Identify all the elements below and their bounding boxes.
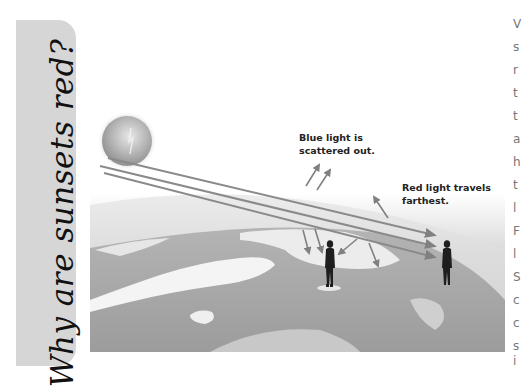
text-fragment: t: [513, 109, 518, 123]
text-fragment: s: [513, 339, 519, 353]
text-fragment: t: [513, 86, 518, 100]
caption-line: farthest.: [402, 194, 491, 207]
text-fragment: c: [513, 293, 520, 307]
text-fragment: h: [513, 155, 521, 169]
text-fragment: i: [513, 354, 516, 368]
caption-line: scattered out.: [299, 144, 375, 157]
text-fragment: r: [513, 63, 518, 77]
red-light-caption: Red light travels farthest.: [402, 181, 491, 207]
caption-line: Blue light is: [299, 131, 375, 144]
page-title: Why are sunsets red?: [44, 39, 80, 387]
body-text-column-cropped: V s r t t a h t l F l S c c s i: [513, 0, 524, 370]
text-fragment: a: [513, 132, 520, 146]
text-fragment: c: [513, 316, 520, 330]
text-fragment: F: [513, 224, 520, 238]
sunset-diagram: Blue light is scattered out. Red light t…: [90, 0, 505, 352]
sidebar-title-tab: Why are sunsets red?: [16, 20, 76, 366]
text-fragment: t: [513, 178, 518, 192]
text-fragment: V: [513, 17, 521, 31]
text-fragment: l: [513, 201, 516, 215]
text-fragment: s: [513, 40, 519, 54]
diagram-illustration: [90, 0, 505, 352]
blue-light-caption: Blue light is scattered out.: [299, 131, 375, 157]
caption-line: Red light travels: [402, 181, 491, 194]
text-fragment: S: [513, 270, 521, 284]
text-fragment: l: [513, 247, 516, 261]
